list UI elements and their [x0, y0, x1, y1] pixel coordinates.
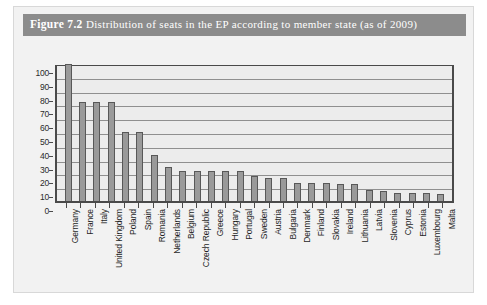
- x-axis-tick-slot: [262, 203, 276, 208]
- bar: [351, 184, 358, 201]
- y-axis-tick: [49, 142, 53, 143]
- bar-slot: [348, 65, 362, 201]
- bar-slot: [391, 65, 405, 201]
- x-axis-tick: [297, 203, 298, 208]
- x-axis-tick-slot: [276, 203, 290, 208]
- y-axis-tick-label: 70: [40, 109, 49, 119]
- x-axis-tick-slot: [320, 203, 334, 208]
- x-axis-tick-label: Malta: [447, 209, 457, 229]
- x-axis-tick-slot: [189, 203, 203, 208]
- x-axis-tick-slot: [436, 203, 450, 208]
- x-axis-tick: [240, 203, 241, 208]
- x-axis-tick-slot: [291, 203, 305, 208]
- y-axis-tick: [49, 114, 53, 115]
- bar-slot: [262, 65, 276, 201]
- bar: [237, 171, 244, 201]
- x-axis-label-slot: Spain: [131, 209, 145, 287]
- bar-slot: [319, 65, 333, 201]
- bar-slot: [362, 65, 376, 201]
- bar: [337, 184, 344, 201]
- x-axis-tick: [254, 203, 255, 208]
- x-axis-tick-slot: [160, 203, 174, 208]
- x-axis-tick-slot: [59, 203, 73, 208]
- bar: [409, 193, 416, 201]
- bar: [93, 102, 100, 201]
- bar-slot: [118, 65, 132, 201]
- y-axis-tick-label: 80: [40, 96, 49, 106]
- y-axis-tick: [49, 211, 53, 212]
- x-axis-tick-slot: [363, 203, 377, 208]
- y-axis-tick: [49, 128, 53, 129]
- bar-slot: [247, 65, 261, 201]
- bar-slot: [147, 65, 161, 201]
- bar: [323, 183, 330, 201]
- x-axis-tick: [109, 203, 110, 208]
- bar: [308, 183, 315, 201]
- x-axis-tick-slot: [73, 203, 87, 208]
- x-axis-label-slot: Finland: [305, 209, 319, 287]
- x-axis-label-slot: Austria: [262, 209, 276, 287]
- x-axis-tick: [269, 203, 270, 208]
- bar-slot: [61, 65, 75, 201]
- bar-slot: [405, 65, 419, 201]
- x-axis-tick-slot: [421, 203, 435, 208]
- bar: [366, 190, 373, 201]
- bar-slot: [204, 65, 218, 201]
- bar: [179, 171, 186, 201]
- x-axis-label-slot: Luxembourg: [421, 209, 435, 287]
- bar-slot: [176, 65, 190, 201]
- x-axis-tick-slot: [102, 203, 116, 208]
- bar: [122, 132, 129, 201]
- x-axis-label-slot: Hungary: [218, 209, 232, 287]
- x-axis-label-slot: Lithuania: [349, 209, 363, 287]
- x-axis-label-slot: Germany: [59, 209, 73, 287]
- y-axis-tick: [49, 73, 53, 74]
- x-axis-tick: [370, 203, 371, 208]
- bar-slot: [434, 65, 448, 201]
- y-axis-tick-label: 40: [40, 151, 49, 161]
- bar: [108, 102, 115, 201]
- x-axis-label-slot: Greece: [204, 209, 218, 287]
- figure-caption-label: Figure 7.2: [30, 18, 83, 30]
- bar: [222, 171, 229, 201]
- bar: [294, 183, 301, 201]
- x-axis-tick-slot: [88, 203, 102, 208]
- x-axis-label-slot: Latvia: [363, 209, 377, 287]
- y-axis-tick-label: 10: [40, 192, 49, 202]
- bar-slot: [75, 65, 89, 201]
- y-axis-tick-label: 30: [40, 165, 49, 175]
- bar-slot: [104, 65, 118, 201]
- x-axis-label-slot: Bulgaria: [276, 209, 290, 287]
- x-axis-tick-slot: [175, 203, 189, 208]
- bar: [394, 193, 401, 201]
- bar: [437, 194, 444, 201]
- bar: [280, 178, 287, 201]
- bar: [165, 167, 172, 202]
- bar-slot: [419, 65, 433, 201]
- bar-slot: [333, 65, 347, 201]
- x-axis-label-slot: Romania: [146, 209, 160, 287]
- x-axis-label-slot: Italy: [88, 209, 102, 287]
- bar: [79, 102, 86, 201]
- y-axis-tick: [49, 170, 53, 171]
- x-axis-tick-slot: [392, 203, 406, 208]
- y-axis-tick: [49, 87, 53, 88]
- figure-caption: Figure 7.2 Distribution of seats in the …: [23, 14, 466, 36]
- x-axis-tick: [283, 203, 284, 208]
- y-axis-tick-label: 90: [40, 82, 49, 92]
- bar: [423, 193, 430, 201]
- x-axis-tick: [399, 203, 400, 208]
- x-axis-tick: [413, 203, 414, 208]
- x-axis-label-slot: Sweden: [247, 209, 261, 287]
- x-axis-tick: [326, 203, 327, 208]
- x-axis-label-slot: Ireland: [334, 209, 348, 287]
- x-axis-label-slot: Belgium: [175, 209, 189, 287]
- x-axis-label-slot: France: [73, 209, 87, 287]
- x-axis-tick-slot: [349, 203, 363, 208]
- bar-slot: [276, 65, 290, 201]
- x-axis-tick: [95, 203, 96, 208]
- x-axis-label-slot: United Kingdom: [102, 209, 116, 287]
- x-axis-tick: [182, 203, 183, 208]
- x-axis-tick: [442, 203, 443, 208]
- x-axis-label-slot: Portugal: [233, 209, 247, 287]
